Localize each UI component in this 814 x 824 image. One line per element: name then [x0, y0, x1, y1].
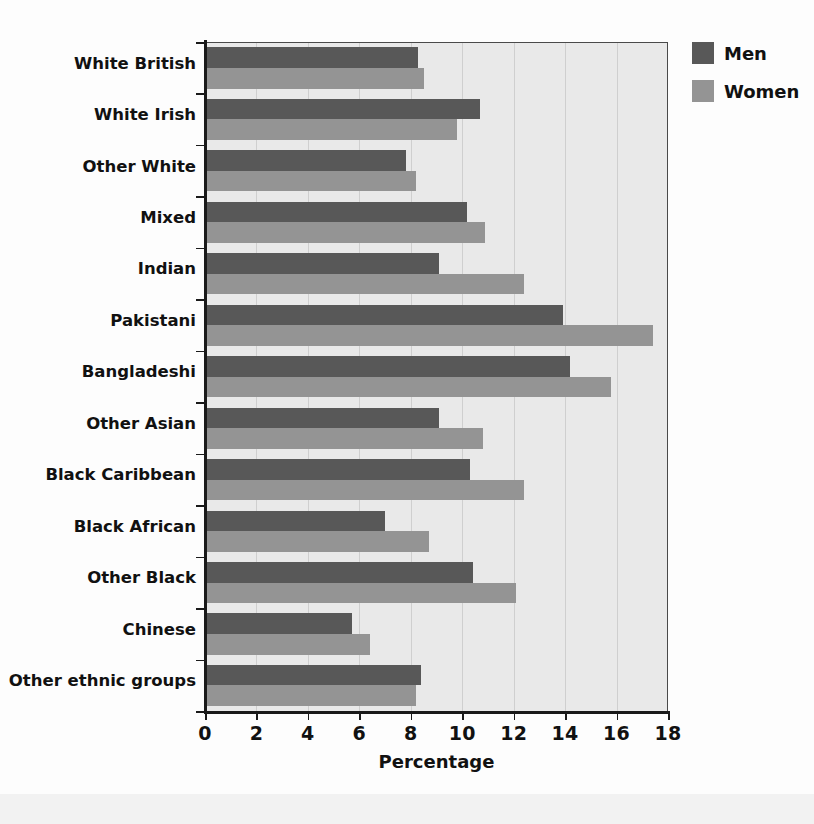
bar-women-chinese	[205, 634, 370, 655]
x-tick	[514, 711, 516, 720]
bar-women-indian	[205, 274, 524, 295]
x-tick	[308, 711, 310, 720]
bar-men-black-african	[205, 511, 385, 532]
y-axis-line	[204, 40, 207, 713]
bar-women-other-asian	[205, 428, 483, 449]
x-tick	[668, 711, 670, 720]
x-tick-label: 18	[654, 722, 681, 744]
x-tick-label: 10	[449, 722, 476, 744]
bar-women-mixed	[205, 222, 485, 243]
x-tick-label: 14	[552, 722, 579, 744]
y-axis-label-white-irish: White Irish	[94, 105, 196, 124]
x-axis-line	[204, 711, 670, 714]
y-axis-label-pakistani: Pakistani	[110, 310, 196, 329]
y-tick	[196, 42, 205, 44]
x-tick-label: 8	[404, 722, 418, 744]
x-tick-label: 12	[500, 722, 527, 744]
legend-item-women: Women	[692, 80, 807, 102]
y-tick	[196, 299, 205, 301]
bar-men-other-black	[205, 562, 473, 583]
bar-women-black-african	[205, 531, 429, 552]
plot-area	[205, 42, 668, 711]
x-tick	[205, 711, 207, 720]
bar-men-chinese	[205, 613, 352, 634]
y-tick	[196, 402, 205, 404]
x-tick	[462, 711, 464, 720]
legend-label-men: Men	[724, 43, 767, 64]
bar-men-bangladeshi	[205, 356, 570, 377]
y-axis-label-indian: Indian	[138, 259, 196, 278]
bar-men-other-ethnic-groups	[205, 665, 421, 686]
bar-women-other-black	[205, 583, 516, 604]
page-bottom-band	[0, 794, 814, 824]
y-tick	[196, 608, 205, 610]
x-tick	[359, 711, 361, 720]
y-tick	[196, 196, 205, 198]
x-tick-label: 6	[353, 722, 367, 744]
bar-men-white-irish	[205, 99, 480, 120]
chart-legend: Men Women	[692, 42, 807, 118]
legend-label-women: Women	[724, 81, 799, 102]
x-tick-label: 2	[250, 722, 264, 744]
y-axis-label-black-african: Black African	[74, 516, 196, 535]
y-axis-labels: White BritishWhite IrishOther WhiteMixed…	[0, 0, 196, 824]
y-axis-label-chinese: Chinese	[123, 619, 196, 638]
y-tick	[196, 505, 205, 507]
x-tick	[256, 711, 258, 720]
bar-women-other-ethnic-groups	[205, 685, 416, 706]
legend-item-men: Men	[692, 42, 807, 64]
bar-men-mixed	[205, 202, 467, 223]
y-tick	[196, 351, 205, 353]
legend-swatch-women-icon	[692, 80, 714, 102]
x-tick	[411, 711, 413, 720]
y-axis-label-other-black: Other Black	[87, 568, 196, 587]
bar-women-white-irish	[205, 119, 457, 140]
bar-men-indian	[205, 253, 439, 274]
y-tick	[196, 145, 205, 147]
y-axis-label-other-asian: Other Asian	[86, 413, 196, 432]
x-tick	[565, 711, 567, 720]
y-tick	[196, 557, 205, 559]
x-tick	[617, 711, 619, 720]
y-axis-label-black-caribbean: Black Caribbean	[45, 465, 196, 484]
x-tick-label: 0	[198, 722, 212, 744]
x-tick-label: 4	[301, 722, 315, 744]
y-tick	[196, 711, 205, 713]
bar-men-pakistani	[205, 305, 563, 326]
bar-men-black-caribbean	[205, 459, 470, 480]
bar-women-other-white	[205, 171, 416, 192]
bar-women-bangladeshi	[205, 377, 611, 398]
bar-chart: 024681012141618 White BritishWhite Irish…	[0, 0, 814, 824]
legend-swatch-men-icon	[692, 42, 714, 64]
bar-women-pakistani	[205, 325, 653, 346]
y-tick	[196, 93, 205, 95]
bar-men-white-british	[205, 47, 418, 68]
bar-men-other-asian	[205, 408, 439, 429]
y-tick	[196, 660, 205, 662]
x-tick-label: 16	[603, 722, 630, 744]
bar-women-black-caribbean	[205, 480, 524, 501]
bar-men-other-white	[205, 150, 406, 171]
bar-women-white-british	[205, 68, 424, 89]
y-tick	[196, 454, 205, 456]
y-axis-label-mixed: Mixed	[140, 207, 196, 226]
x-axis-title: Percentage	[205, 751, 668, 772]
y-axis-label-other-ethnic-groups: Other ethnic groups	[9, 671, 196, 690]
gridline	[617, 43, 618, 711]
y-tick	[196, 248, 205, 250]
y-axis-label-other-white: Other White	[83, 156, 196, 175]
y-axis-label-white-british: White British	[74, 53, 196, 72]
y-axis-label-bangladeshi: Bangladeshi	[82, 362, 196, 381]
